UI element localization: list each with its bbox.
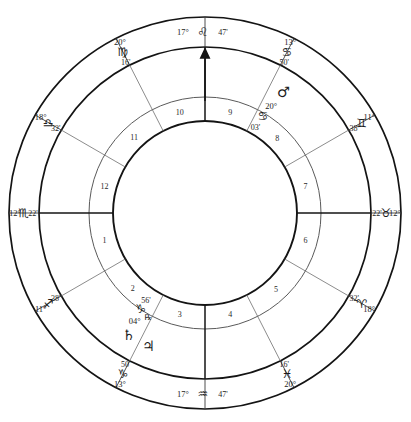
cusp-minute-3: 50': [121, 360, 131, 369]
chart-wheel-svg: 12°♏22'11°♐38'13°♑50'17°♒47'20°♓16'18°♈3…: [0, 0, 411, 422]
cusp-sign-glyph-aquarius: ♒: [198, 387, 209, 401]
house-cusp-line-12: [61, 130, 125, 167]
planet-glyph-saturn: ♄: [122, 327, 135, 343]
planet-retrograde-saturn: ℞: [144, 313, 151, 322]
house-number-9: 9: [228, 108, 232, 117]
house-number-3: 3: [178, 310, 182, 319]
planet-glyph-jupiter: ♃: [142, 338, 155, 354]
house-number-10: 10: [176, 108, 184, 117]
cusp-degree-4: 17°: [177, 389, 189, 399]
cusp-minute-10: 47': [218, 28, 228, 37]
house-number-11: 11: [130, 133, 138, 142]
house-cusp-line-6: [285, 259, 349, 296]
cusp-sign-glyph-leo: ♌: [198, 25, 209, 39]
cusp-minute-2: 38': [51, 294, 61, 303]
house-number-4: 4: [228, 310, 232, 319]
house-number-8: 8: [275, 134, 279, 143]
planet-glyph-mars: ♂: [277, 84, 290, 100]
cusp-minute-1: 22': [28, 209, 38, 218]
ascendant-arrow: [201, 49, 209, 101]
house-number-5: 5: [274, 285, 278, 294]
house-band-inner-ring: [113, 121, 297, 305]
cusp-minute-12: 32': [51, 124, 61, 133]
cusp-minute-8: 38': [349, 124, 359, 133]
house-cusp-line-2: [61, 259, 125, 296]
house-cusp-line-8: [285, 130, 349, 167]
cusp-minute-6: 32': [349, 294, 359, 303]
cusp-minute-7: 22': [372, 209, 382, 218]
astrology-chart-wheel: 12°♏22'11°♐38'13°♑50'17°♒47'20°♓16'18°♈3…: [0, 0, 411, 422]
cusp-minute-11: 16': [121, 58, 131, 67]
house-number-labels: 123456789101112: [101, 108, 308, 319]
house-number-7: 7: [303, 182, 307, 191]
cusp-sign-glyph-taurus: ♉: [381, 206, 392, 220]
house-number-6: 6: [303, 236, 307, 245]
house-number-2: 2: [131, 284, 135, 293]
planet-minute-mars: 03': [251, 123, 261, 132]
planet-labels: ♂20°♋03'♄04°♑56'℞♃: [122, 84, 290, 353]
planet-minute-saturn: 56': [141, 296, 151, 305]
ascendant-arrow-head: [201, 49, 209, 58]
cusp-minute-9: 50': [279, 58, 289, 67]
house-number-12: 12: [101, 182, 109, 191]
cusp-minute-4: 47': [218, 390, 228, 399]
cusp-minute-5: 16': [279, 360, 289, 369]
planet-degree-saturn: 04°: [129, 316, 141, 326]
house-number-1: 1: [103, 236, 107, 245]
planet-sign-glyph-mars: ♋: [258, 109, 269, 123]
house-band-outer-ring: [89, 97, 321, 329]
cusp-degree-10: 17°: [177, 27, 189, 37]
